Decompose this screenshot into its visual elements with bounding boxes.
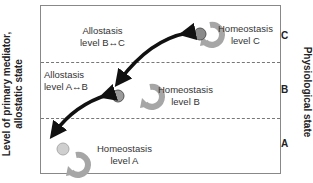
label-allostasis-bc: Allostasislevel B↔C <box>80 25 125 49</box>
y-axis-right-label: Physiological state <box>301 37 313 147</box>
circle-b-icon <box>112 90 124 102</box>
label-homeostasis-a: Homeostasislevel A <box>97 143 152 167</box>
label-homeostasis-b: Homeostasislevel B <box>158 84 213 108</box>
circle-c-icon <box>194 28 206 40</box>
circle-a-icon <box>57 143 69 155</box>
level-c-label: C <box>281 30 288 41</box>
level-a-label: A <box>281 138 288 149</box>
label-allostasis-ab: Allostasislevel A↔B <box>44 69 88 93</box>
label-homeostasis-c: Homeostasislevel C <box>218 23 273 47</box>
level-b-label: B <box>281 84 288 95</box>
y-axis-left-label: Level of primary mediator,allostatic sta… <box>1 29 25 159</box>
